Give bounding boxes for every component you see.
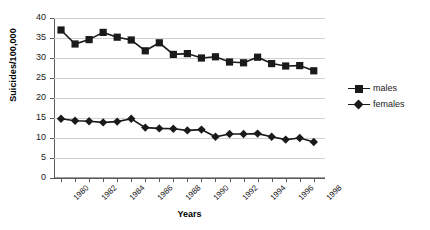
data-point-diamond — [113, 117, 121, 125]
data-point-square — [282, 62, 289, 69]
data-point-diamond — [183, 126, 191, 134]
data-point-diamond — [225, 130, 233, 138]
data-point-square — [296, 62, 303, 69]
legend-diamond-marker-icon — [348, 99, 370, 110]
data-point-square — [226, 58, 233, 65]
data-point-diamond — [239, 130, 247, 138]
suicide-rate-line-chart: 0510152025303540 19801982198419861988199… — [0, 0, 430, 230]
data-point-square — [114, 34, 121, 41]
data-point-square — [156, 39, 163, 46]
data-point-diamond — [211, 133, 219, 141]
data-point-diamond — [141, 123, 149, 131]
data-point-diamond — [281, 135, 289, 143]
data-point-square — [212, 53, 219, 60]
data-point-diamond — [253, 129, 261, 137]
data-point-square — [310, 67, 317, 74]
data-point-diamond — [169, 125, 177, 133]
data-point-square — [128, 36, 135, 43]
data-point-diamond — [267, 133, 275, 141]
legend-label-males: males — [373, 84, 397, 93]
data-point-square — [86, 36, 93, 43]
legend-item-females[interactable]: females — [348, 98, 405, 111]
data-point-square — [268, 60, 275, 67]
data-point-square — [170, 51, 177, 58]
data-point-square — [240, 59, 247, 66]
data-point-diamond — [99, 118, 107, 126]
data-point-diamond — [310, 138, 318, 146]
data-series-layer — [0, 0, 430, 230]
data-point-diamond — [155, 124, 163, 132]
data-point-diamond — [197, 125, 205, 133]
data-point-square — [142, 47, 149, 54]
data-point-square — [198, 54, 205, 61]
data-point-square — [71, 40, 78, 47]
data-point-diamond — [296, 134, 304, 142]
data-point-square — [254, 54, 261, 61]
legend-label-females: females — [373, 100, 405, 109]
legend-square-marker-icon — [348, 83, 370, 94]
data-point-diamond — [71, 117, 79, 125]
data-point-square — [184, 50, 191, 57]
legend-item-males[interactable]: males — [348, 82, 405, 95]
chart-legend: males females — [348, 82, 405, 114]
data-point-square — [57, 26, 64, 33]
data-point-diamond — [85, 117, 93, 125]
data-point-diamond — [127, 115, 135, 123]
data-point-diamond — [57, 115, 65, 123]
data-point-square — [100, 29, 107, 36]
